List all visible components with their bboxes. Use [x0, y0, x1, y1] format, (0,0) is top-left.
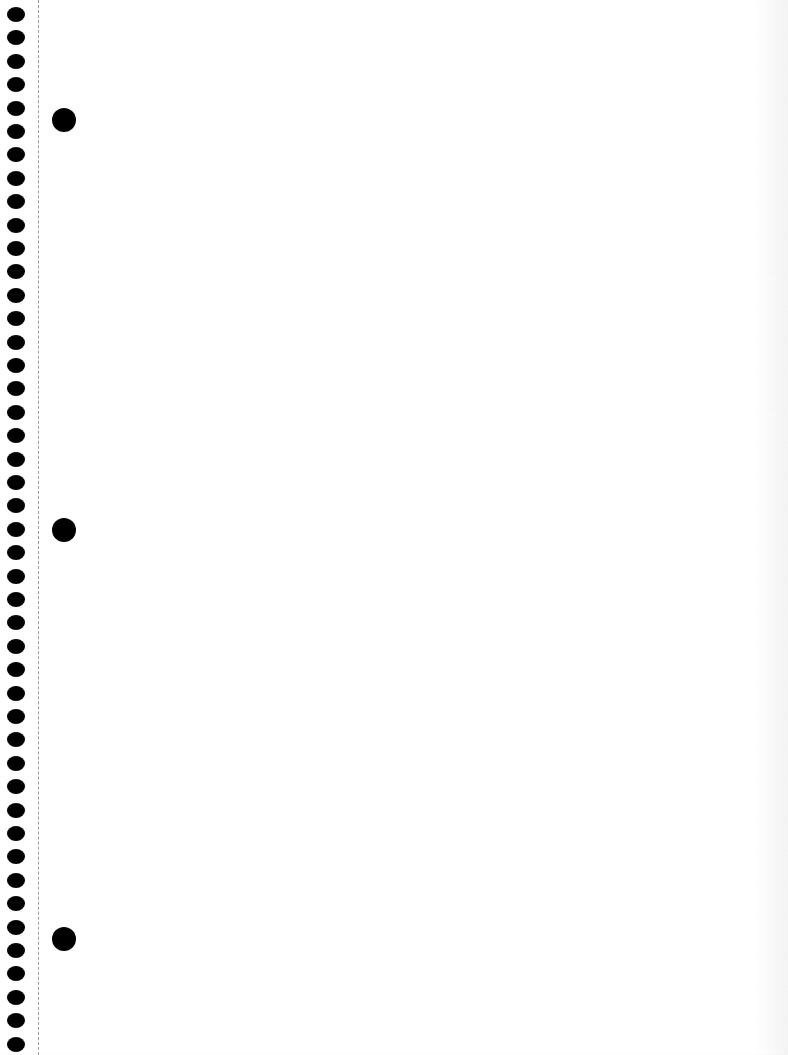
spiral-hole [7, 686, 25, 701]
spiral-hole [7, 920, 25, 935]
spiral-hole [7, 826, 25, 841]
binder-hole [52, 108, 76, 132]
spiral-hole [7, 124, 25, 139]
spiral-hole [7, 428, 25, 443]
spiral-hole [7, 171, 25, 186]
spiral-hole [7, 639, 25, 654]
spiral-hole [7, 990, 25, 1005]
spiral-hole [7, 803, 25, 818]
spiral-hole [7, 966, 25, 981]
spiral-hole [7, 662, 25, 677]
spiral-hole [7, 405, 25, 420]
spiral-hole [7, 732, 25, 747]
spiral-hole [7, 101, 25, 116]
spiral-hole [7, 241, 25, 256]
spiral-hole [7, 30, 25, 45]
spiral-hole [7, 381, 25, 396]
spiral-hole [7, 1013, 25, 1028]
spiral-hole [7, 756, 25, 771]
spiral-hole [7, 264, 25, 279]
spiral-hole [7, 849, 25, 864]
spiral-hole [7, 452, 25, 467]
paper-texture [0, 0, 788, 1055]
spiral-hole [7, 522, 25, 537]
spiral-hole [7, 873, 25, 888]
binder-hole [52, 927, 76, 951]
spiral-hole [7, 194, 25, 209]
spiral-hole [7, 54, 25, 69]
spiral-hole [7, 943, 25, 958]
spiral-hole [7, 1037, 25, 1052]
spiral-hole [7, 7, 25, 22]
spiral-hole [7, 77, 25, 92]
perforation-line [38, 0, 39, 1055]
spiral-hole [7, 358, 25, 373]
spiral-hole [7, 615, 25, 630]
spiral-hole [7, 498, 25, 513]
spiral-hole [7, 592, 25, 607]
spiral-hole [7, 779, 25, 794]
spiral-hole [7, 311, 25, 326]
notebook-sheet [0, 0, 788, 1055]
spiral-hole [7, 709, 25, 724]
spiral-hole [7, 147, 25, 162]
spiral-hole [7, 569, 25, 584]
spiral-hole [7, 288, 25, 303]
spiral-hole [7, 218, 25, 233]
binder-hole [52, 518, 76, 542]
spiral-hole [7, 335, 25, 350]
spiral-hole [7, 896, 25, 911]
spiral-hole [7, 475, 25, 490]
spiral-hole [7, 545, 25, 560]
spiral-binding [0, 0, 36, 1055]
